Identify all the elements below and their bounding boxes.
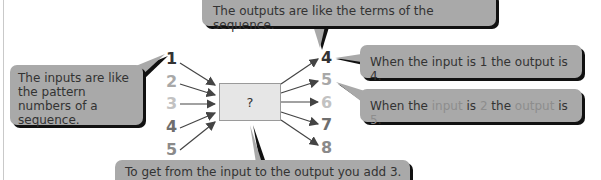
- input-number-1: 1: [166, 51, 177, 67]
- inputs-callout-text: The inputs are like the pattern numbers …: [18, 71, 129, 127]
- example-2-text-part: the: [488, 99, 515, 113]
- example-2-text-part: When the: [370, 99, 432, 113]
- outputs-callout: The outputs are like the terms of the se…: [202, 0, 496, 26]
- example-2-output-word: output: [515, 99, 555, 113]
- input-number-5: 5: [166, 142, 177, 158]
- rule-callout: To get from the input to the output you …: [115, 160, 410, 180]
- example-2-text-part: is: [463, 99, 480, 113]
- example-2-output-value: 5: [370, 113, 378, 127]
- input-number-2: 2: [166, 74, 177, 90]
- output-number-6: 6: [321, 95, 332, 111]
- example-2-input-word: input: [432, 99, 463, 113]
- example-1-callout: When the input is 1 the output is 4.: [360, 45, 582, 78]
- function-machine-box: ?: [219, 83, 281, 121]
- example-2-callout: When the input is 2 the output is 5.: [360, 89, 582, 122]
- example-2-text-part: .: [378, 113, 382, 127]
- function-unknown-label: ?: [247, 95, 254, 110]
- output-number-4: 4: [321, 50, 332, 66]
- output-number-8: 8: [321, 140, 332, 156]
- inputs-callout: The inputs are like the pattern numbers …: [10, 65, 143, 125]
- input-number-4: 4: [166, 119, 177, 135]
- example-2-input-value: 2: [480, 99, 488, 113]
- input-number-3: 3: [166, 96, 177, 112]
- output-number-5: 5: [321, 72, 332, 88]
- example-2-text-part: is: [554, 99, 567, 113]
- output-number-7: 7: [321, 117, 332, 133]
- rule-callout-text: To get from the input to the output you …: [125, 165, 401, 179]
